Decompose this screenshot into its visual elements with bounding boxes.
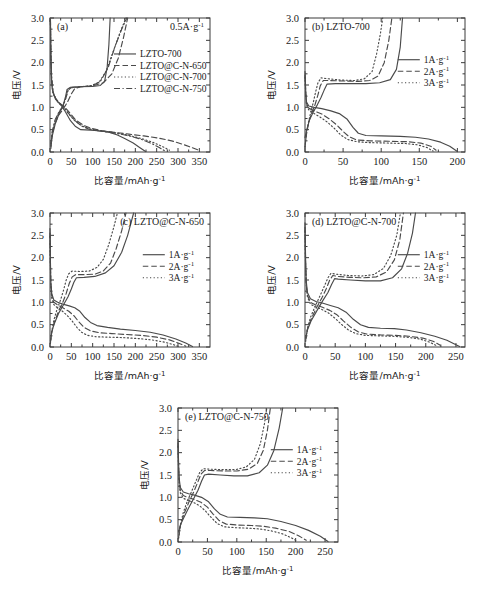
y-tick-label: 1.5	[159, 470, 172, 481]
y-tick-label: 2.5	[286, 230, 299, 241]
legend-label: LZTO@C-N-750	[140, 84, 207, 94]
x-tick-label: 0	[47, 351, 52, 362]
x-tick-label: 50	[202, 546, 213, 557]
y-tick-label: 0.0	[159, 537, 172, 548]
y-tick-label: 1.5	[286, 80, 299, 91]
legend-label: 1A·g-1	[424, 54, 450, 66]
y-tick-label: 1.0	[286, 297, 299, 308]
y-tick-label: 1.0	[286, 102, 299, 113]
x-tick-label: 50	[330, 351, 341, 362]
y-tick-label: 1.0	[159, 492, 172, 503]
x-tick-label: 0	[302, 156, 307, 167]
x-tick-label: 50	[338, 156, 349, 167]
curve-b-charge-0	[305, 18, 403, 138]
y-tick-label: 3.0	[159, 403, 172, 414]
x-tick-label: 200	[288, 546, 304, 557]
y-axis-label: 电压/V	[11, 265, 22, 295]
y-tick-label: 0.5	[31, 319, 44, 330]
legend-label: 3A·g-1	[297, 467, 323, 479]
x-tick-label: 150	[388, 351, 404, 362]
y-tick-label: 2.0	[286, 57, 299, 68]
x-tick-label: 250	[149, 351, 165, 362]
y-tick-label: 1.0	[31, 297, 44, 308]
x-tick-label: 100	[373, 156, 389, 167]
x-tick-label: 0	[47, 156, 52, 167]
y-tick-label: 2.5	[31, 230, 44, 241]
legend-label: 1A·g-1	[297, 444, 323, 456]
x-tick-label: 0	[302, 351, 307, 362]
panel-title-b: (b) LZTO-700	[312, 21, 370, 33]
x-tick-label: 300	[170, 156, 186, 167]
panel-title-a: (a)	[57, 21, 68, 33]
y-axis-label: 电压/V	[139, 460, 150, 490]
x-tick-label: 100	[358, 351, 374, 362]
curve-b-discharge-2	[305, 77, 433, 151]
y-tick-label: 0.0	[286, 342, 299, 353]
y-axis-label: 电压/V	[11, 70, 22, 100]
chart-panel-b: 0501001502000.00.51.01.52.02.53.0(b) LZT…	[259, 4, 477, 196]
x-tick-label: 350	[191, 156, 207, 167]
x-tick-label: 150	[106, 351, 122, 362]
x-tick-label: 50	[66, 156, 77, 167]
legend-label: LZTO@C-N-650	[140, 61, 207, 71]
x-tick-label: 250	[149, 156, 165, 167]
y-tick-label: 3.0	[31, 208, 44, 219]
legend-label: LZTO@C-N-700	[140, 72, 207, 82]
legend-label: 3A·g-1	[424, 272, 450, 284]
x-tick-label: 200	[450, 156, 466, 167]
panel-title-e: (e) LZTO@C-N-750	[185, 411, 269, 423]
x-tick-label: 300	[170, 351, 186, 362]
y-tick-label: 3.0	[286, 208, 299, 219]
curve-a-charge-3	[51, 18, 127, 145]
y-tick-label: 1.5	[31, 80, 44, 91]
y-axis-label: 电压/V	[266, 70, 277, 100]
legend-label: 2A·g-1	[297, 455, 323, 467]
curve-d-charge-0	[306, 213, 416, 338]
y-tick-label: 0.0	[31, 342, 44, 353]
x-tick-label: 150	[106, 156, 122, 167]
x-tick-label: 200	[418, 351, 434, 362]
curve-c-charge-2	[50, 213, 117, 343]
chart-panel-e: 0501001502002500.00.51.01.52.02.53.0(e) …	[132, 394, 350, 586]
y-tick-label: 2.0	[159, 447, 172, 458]
y-tick-label: 2.0	[31, 57, 44, 68]
legend-label: 2A·g-1	[424, 65, 450, 77]
y-tick-label: 0.5	[286, 319, 299, 330]
y-tick-label: 3.0	[286, 13, 299, 24]
curve-d-charge-1	[306, 213, 404, 340]
y-tick-label: 0.5	[159, 514, 172, 525]
x-tick-label: 100	[85, 351, 101, 362]
y-axis-label: 电压/V	[266, 265, 277, 295]
curve-c-charge-1	[50, 213, 126, 343]
x-axis-label: 比容量/mAh·g-1	[222, 565, 293, 577]
y-tick-label: 2.0	[31, 252, 44, 263]
y-tick-label: 2.5	[159, 425, 172, 436]
y-tick-label: 2.5	[286, 35, 299, 46]
x-tick-label: 0	[175, 546, 180, 557]
y-tick-label: 1.0	[31, 102, 44, 113]
y-tick-label: 3.0	[31, 13, 44, 24]
x-tick-label: 50	[66, 351, 77, 362]
x-tick-label: 250	[317, 546, 333, 557]
x-axis-label: 比容量/mAh·g-1	[349, 175, 420, 187]
y-tick-label: 0.5	[286, 124, 299, 135]
legend-label: 2A·g-1	[169, 260, 195, 272]
x-tick-label: 100	[229, 546, 245, 557]
x-tick-label: 150	[258, 546, 274, 557]
x-tick-label: 150	[411, 156, 427, 167]
panel-title-d: (d) LZTO@C-N-700	[312, 216, 396, 228]
chart-panel-a: 0501001502002503003500.00.51.01.52.02.53…	[4, 4, 222, 196]
y-tick-label: 0.0	[31, 147, 44, 158]
legend-label: 3A·g-1	[424, 77, 450, 89]
y-tick-label: 0.5	[31, 124, 44, 135]
x-tick-label: 350	[191, 351, 207, 362]
legend-label: LZTO-700	[140, 49, 182, 59]
curve-e-charge-2	[179, 408, 267, 538]
x-axis-label: 比容量/mAh·g-1	[349, 370, 420, 382]
current-rate-annotation: 0.5A·g-1	[170, 21, 204, 33]
y-tick-label: 1.5	[286, 275, 299, 286]
x-axis-label: 比容量/mAh·g-1	[94, 370, 165, 382]
y-tick-label: 1.5	[31, 275, 44, 286]
panel-title-c: (c) LZTO@C-N-650	[120, 216, 204, 228]
x-tick-label: 100	[85, 156, 101, 167]
